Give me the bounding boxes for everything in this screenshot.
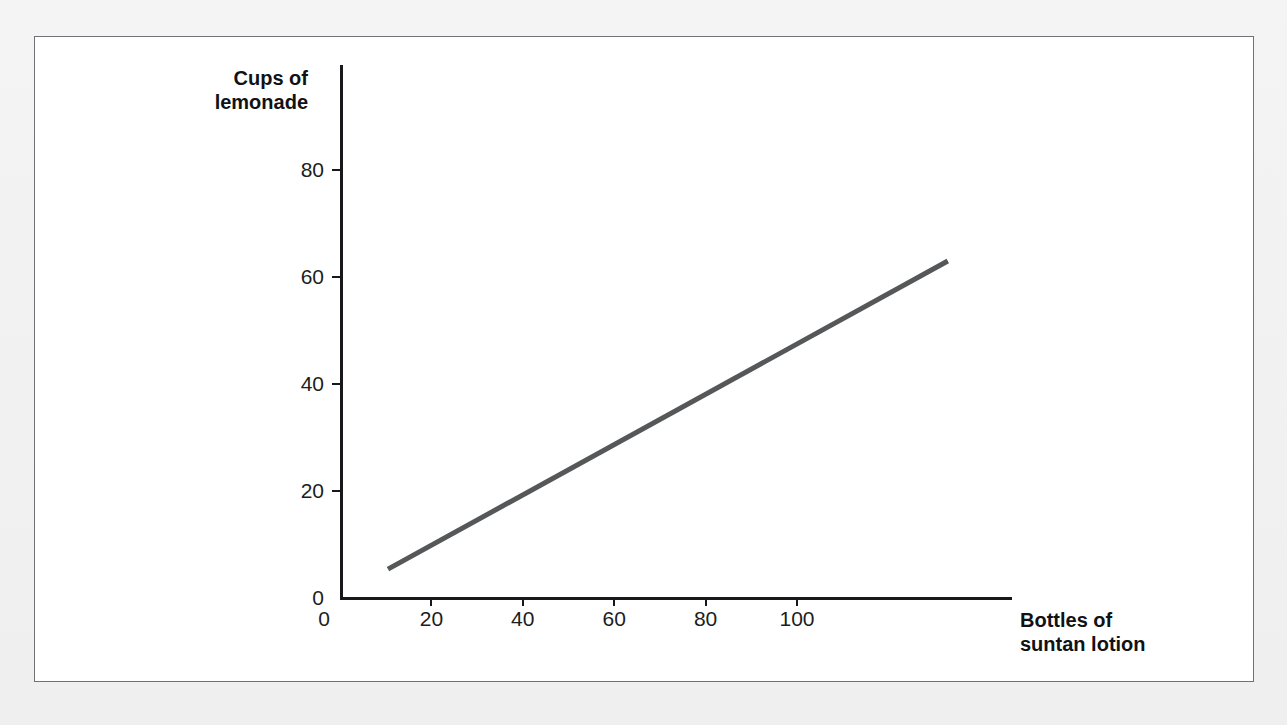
trend-line-layer: [35, 37, 1255, 683]
trend-line: [388, 261, 948, 569]
plot-area: Cups of lemonade Bottles of suntan lotio…: [35, 37, 1253, 681]
figure-frame: Cups of lemonade Bottles of suntan lotio…: [34, 36, 1254, 682]
